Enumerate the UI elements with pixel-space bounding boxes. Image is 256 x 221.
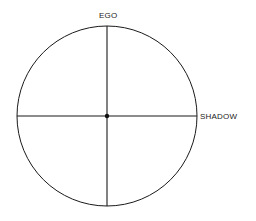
center-dot — [105, 114, 109, 118]
shadow-label: SHADOW — [200, 112, 237, 121]
ego-label: EGO — [99, 11, 117, 20]
ego-shadow-diagram — [0, 0, 256, 221]
